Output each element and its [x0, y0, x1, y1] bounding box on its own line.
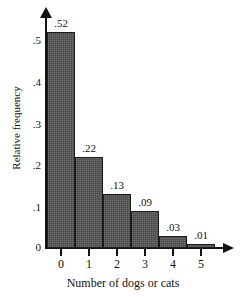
x-tick-label-2: 2 [107, 258, 127, 271]
y-tick-label-5: .5 [24, 35, 41, 46]
x-tick-label-3: 3 [135, 258, 155, 271]
y-tick-label-1: .1 [24, 202, 41, 213]
y-axis-title: Relative frequency [10, 63, 22, 193]
bar-4 [159, 236, 187, 248]
y-tick-label-4: .4 [24, 77, 41, 88]
bar-value-label-3: .09 [128, 197, 162, 208]
bar-0 [47, 32, 75, 248]
bar-5 [187, 244, 215, 248]
y-tick-label-3: .3 [24, 119, 41, 130]
bar-value-label-0: .52 [44, 18, 78, 29]
x-axis-arrowhead-icon [223, 243, 234, 253]
y-tick-label-0: 0 [24, 242, 41, 253]
x-tick-label-4: 4 [163, 258, 183, 271]
bar-value-label-2: .13 [100, 180, 134, 191]
y-axis-arrowhead-icon [40, 7, 52, 18]
x-tick-0 [60, 249, 62, 256]
bar-value-label-5: .01 [184, 230, 218, 241]
x-tick-3 [144, 249, 146, 256]
x-tick-5 [200, 249, 202, 256]
bar-2 [103, 194, 131, 248]
x-tick-1 [88, 249, 90, 256]
bar-3 [131, 211, 159, 248]
x-tick-label-5: 5 [191, 258, 211, 271]
x-axis-title: Number of dogs or cats [0, 276, 246, 290]
bar-value-label-1: .22 [72, 143, 106, 154]
y-tick-label-2: .2 [24, 160, 41, 171]
x-tick-4 [172, 249, 174, 256]
relative-frequency-bar-chart: .5 .4 .3 .2 .1 0 .52 .22 .13 .09 .03 .01… [0, 0, 246, 297]
x-tick-label-1: 1 [79, 258, 99, 271]
x-tick-2 [116, 249, 118, 256]
bar-1 [75, 157, 103, 248]
x-tick-label-0: 0 [51, 258, 71, 271]
